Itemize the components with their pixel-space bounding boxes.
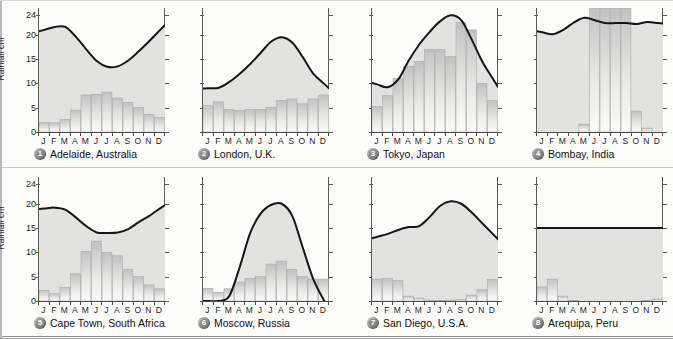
x-tickmark <box>662 132 663 136</box>
month-label: J <box>38 305 49 315</box>
y-tickmark-right <box>663 132 667 133</box>
month-label: A <box>403 136 414 146</box>
month-label: O <box>631 136 642 146</box>
x-axis <box>536 132 662 133</box>
month-label: D <box>652 305 663 315</box>
y-tickmark-right <box>663 228 667 229</box>
month-label: M <box>223 305 234 315</box>
month-label: D <box>318 136 329 146</box>
y-tickmark-right <box>165 35 169 36</box>
bar <box>266 108 276 132</box>
month-label: J <box>434 305 445 315</box>
y-tick-label: 15 <box>14 55 36 63</box>
x-axis-month-labels: JFMAMJJASOND <box>38 136 164 146</box>
chart-graphics-7 <box>372 177 498 301</box>
x-axis-month-labels: JFMAMJJASOND <box>536 305 662 315</box>
chart-number-badge: 7 <box>367 317 379 329</box>
plot-area <box>536 8 663 132</box>
bar <box>102 92 112 132</box>
bar <box>372 107 382 132</box>
month-label: J <box>255 305 266 315</box>
bar <box>456 23 466 132</box>
bar <box>537 287 547 301</box>
bar <box>477 290 487 301</box>
y-tickmark-right <box>498 35 502 36</box>
chart-panel-2: JFMAMJJASOND2London, U.K. <box>180 0 355 169</box>
figure-sheet: Rainfall cm2420151050JFMAMJJASOND1Adelai… <box>0 0 673 339</box>
month-label: J <box>589 136 600 146</box>
bar <box>298 277 308 301</box>
x-axis-month-labels: JFMAMJJASOND <box>371 136 497 146</box>
month-label: J <box>265 136 276 146</box>
bar <box>308 99 318 132</box>
chart-panel-5: Rainfall cm2420151050JFMAMJJASOND5Cape T… <box>0 169 180 338</box>
chart-location-label: Bombay, India <box>548 148 614 160</box>
chart-panel-4: JFMAMJJASOND4Bombay, India <box>520 0 673 169</box>
y-axis-ticks: 2420151050 <box>14 8 36 132</box>
chart-graphics-1 <box>39 8 165 132</box>
chart-row-top: Rainfall cm2420151050JFMAMJJASOND1Adelai… <box>0 0 673 169</box>
chart-location-label: London, U.K. <box>214 148 275 160</box>
chart-row-bottom: Rainfall cm2420151050JFMAMJJASOND5Cape T… <box>0 169 673 338</box>
bar <box>50 123 60 132</box>
y-tickmark-right <box>329 15 333 16</box>
x-tickmark <box>164 301 165 305</box>
bar <box>383 279 393 301</box>
month-label: O <box>297 136 308 146</box>
y-tick-label: 5 <box>14 273 36 281</box>
x-tickmark <box>328 301 329 305</box>
bar <box>144 114 154 132</box>
bar <box>235 111 245 132</box>
chart-graphics-5 <box>39 177 165 301</box>
month-label: M <box>413 136 424 146</box>
bar <box>50 294 60 301</box>
y-axis-title: Rainfall cm <box>0 93 8 183</box>
month-label: M <box>578 136 589 146</box>
chart-number-badge: 1 <box>34 148 46 160</box>
chart-caption-6: 6Moscow, Russia <box>198 317 290 329</box>
bar <box>404 66 414 132</box>
month-label: J <box>599 136 610 146</box>
month-label: M <box>244 305 255 315</box>
month-label: S <box>620 136 631 146</box>
y-tickmark-right <box>329 228 333 229</box>
month-label: M <box>557 136 568 146</box>
month-label: A <box>70 136 81 146</box>
chart-graphics-4 <box>537 8 663 132</box>
bar <box>81 251 91 301</box>
month-label: D <box>154 305 165 315</box>
y-tick-label: 20 <box>14 31 36 39</box>
month-label: J <box>536 136 547 146</box>
y-tick-label: 0 <box>14 128 36 136</box>
month-label: J <box>91 136 102 146</box>
y-tick-label: 0 <box>14 297 36 305</box>
month-label: M <box>557 305 568 315</box>
bar <box>60 287 70 301</box>
bar <box>245 279 255 301</box>
month-label: N <box>143 305 154 315</box>
y-tickmark-right <box>329 35 333 36</box>
x-tickmark <box>328 132 329 136</box>
y-tickmark-right <box>663 277 667 278</box>
month-label: A <box>445 305 456 315</box>
bar <box>308 279 318 301</box>
y-tickmark-right <box>165 277 169 278</box>
bar <box>319 95 329 132</box>
month-label: A <box>276 305 287 315</box>
x-tickmark <box>164 132 165 136</box>
y-axis-title-text: Rainfall cm <box>0 183 6 273</box>
bar <box>144 285 154 301</box>
y-tickmark-right <box>663 35 667 36</box>
month-label: N <box>641 305 652 315</box>
month-label: A <box>112 136 123 146</box>
chart-panel-1: Rainfall cm2420151050JFMAMJJASOND1Adelai… <box>0 0 180 169</box>
plot-area <box>371 177 498 301</box>
bar <box>579 124 589 132</box>
x-tickmark <box>662 301 663 305</box>
month-label: J <box>265 305 276 315</box>
y-tickmark-right <box>663 108 667 109</box>
chart-location-label: San Diego, U.S.A. <box>383 317 468 329</box>
bar <box>548 279 558 301</box>
bar <box>621 8 631 132</box>
month-label: O <box>133 305 144 315</box>
